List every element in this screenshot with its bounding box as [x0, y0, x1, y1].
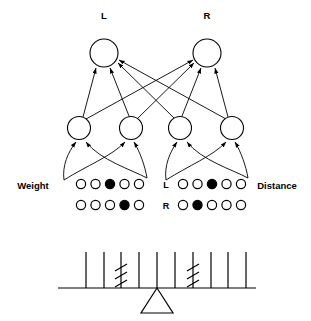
input-unit-distance-row-L-4	[222, 179, 231, 188]
input-unit-distance-row-R-4	[222, 200, 231, 209]
fulcrum-triangle	[141, 288, 173, 313]
input-unit-weight-row-1-4	[120, 179, 129, 188]
input-unit-distance-row-R-1	[178, 200, 187, 209]
output-label-left: L	[101, 10, 107, 21]
input-unit-weight-row-1-3	[105, 179, 114, 188]
edge-hid3-outR	[182, 68, 201, 116]
edge-hid4-outL	[119, 60, 226, 119]
input-unit-weight-row-2-4	[120, 200, 129, 209]
input-unit-distance-row-L-5	[236, 179, 245, 188]
input-group-label-distance: Distance	[257, 180, 297, 191]
hidden-node-4	[221, 117, 244, 140]
input-unit-weight-row-2-1	[76, 200, 85, 209]
edge-distance-rowR-hid3	[187, 142, 248, 178]
edge-hid2-outL	[110, 68, 129, 116]
input-unit-distance-row-R-2	[193, 200, 202, 209]
output-nodes	[90, 39, 221, 67]
input-unit-distance-row-R-5	[236, 200, 245, 209]
edge-distance-rowL-hid4	[166, 142, 226, 180]
input-unit-rows	[76, 179, 245, 209]
input-unit-weight-row-1-1	[76, 179, 85, 188]
output-node-R	[193, 39, 221, 67]
hidden-nodes	[68, 117, 244, 140]
output-label-right: R	[204, 10, 211, 21]
input-unit-weight-row-1-5	[134, 179, 143, 188]
edge-hid2-outR	[137, 63, 194, 119]
edge-weight-row2-hid1	[86, 142, 147, 178]
edge-weight-row1-hid2	[64, 142, 125, 180]
hidden-to-output-edges	[83, 60, 228, 119]
edge-hid4-outR	[215, 68, 228, 117]
input-unit-weight-row-2-3	[105, 200, 114, 209]
hidden-node-1	[68, 117, 91, 140]
hidden-node-3	[169, 117, 192, 140]
diagram-canvas: L R	[0, 0, 311, 321]
output-node-L	[90, 39, 118, 67]
input-unit-weight-row-1-2	[91, 179, 100, 188]
input-to-hidden-edges	[64, 142, 248, 180]
input-unit-weight-row-2-2	[91, 200, 100, 209]
input-unit-distance-row-L-3	[207, 179, 216, 188]
balance-beam	[58, 252, 256, 313]
input-group-label-weight: Weight	[17, 180, 49, 191]
distance-row-label-L: L	[163, 180, 169, 190]
edge-hid1-outL	[83, 68, 96, 117]
distance-row-label-R: R	[163, 201, 170, 211]
input-unit-distance-row-L-2	[193, 179, 202, 188]
input-unit-distance-row-R-3	[207, 200, 216, 209]
input-unit-distance-row-L-1	[178, 179, 187, 188]
hidden-node-2	[120, 117, 143, 140]
input-unit-weight-row-2-5	[134, 200, 143, 209]
balance-scale-network-figure: L R	[0, 0, 311, 321]
edge-hid1-outR	[86, 60, 193, 119]
